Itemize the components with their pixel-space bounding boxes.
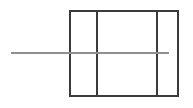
line-drawing [0,0,193,108]
drawing-canvas [0,0,193,108]
